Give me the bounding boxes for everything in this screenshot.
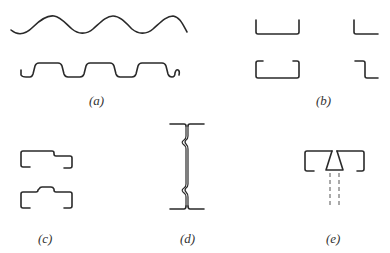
panel-e-label: (e) [326, 231, 340, 246]
left-web [182, 126, 186, 206]
plain-channel [256, 20, 299, 34]
panel-d-label: (d) [180, 231, 195, 246]
panel-b-label: (b) [316, 93, 331, 108]
panel-a: (a) [11, 16, 187, 108]
panel-c-label: (c) [38, 231, 52, 246]
sinusoidal-sheet [11, 16, 187, 34]
bottom-flange [170, 206, 204, 209]
panel-c: (c) [21, 151, 72, 246]
hat-lipped-section [21, 187, 72, 208]
stepped-lipped-section [21, 151, 72, 168]
lipped-channel [256, 61, 299, 78]
panel-d: (d) [170, 124, 204, 246]
z-section [355, 61, 378, 78]
right-lipped-channel [337, 151, 364, 171]
panel-b: (b) [256, 20, 378, 108]
left-lipped-channel [305, 151, 332, 171]
tapered-joint [326, 151, 343, 170]
top-flange [170, 124, 204, 126]
plain-angle [354, 20, 378, 34]
panel-a-label: (a) [89, 93, 104, 108]
trapezoidal-profile [21, 63, 179, 77]
cold-formed-sections-figure: (a) (b) (c) (d) (e) [0, 0, 390, 253]
panel-e: (e) [305, 151, 364, 246]
